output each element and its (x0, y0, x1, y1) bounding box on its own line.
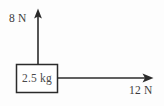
vertical-force-label: 8 N (9, 13, 27, 25)
block-mass-label: 2.5 kg (16, 64, 58, 93)
free-body-diagram: 8 N 2.5 kg 12 N (0, 0, 164, 106)
horizontal-force-label: 12 N (129, 85, 152, 97)
